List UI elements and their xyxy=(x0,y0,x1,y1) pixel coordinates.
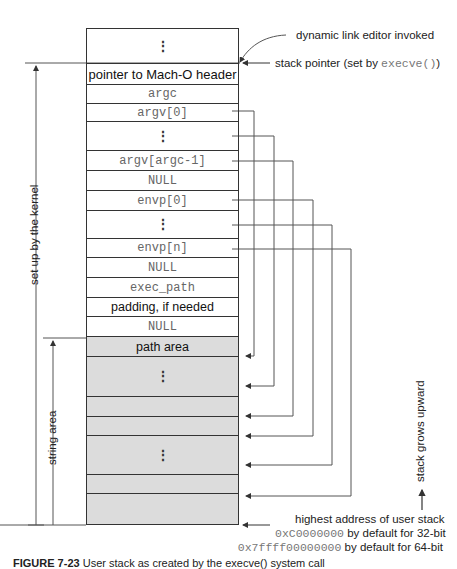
stack-cell-top-ellipsis: ⋮ xyxy=(86,28,239,63)
set-up-by-kernel-label: set up by the kernel xyxy=(28,185,40,285)
vertical-ellipsis-icon: ⋮ xyxy=(156,222,170,227)
stack-cell-padding: padding, if needed xyxy=(86,297,239,316)
dynamic-link-editor-label: dynamic link editor invoked xyxy=(296,29,434,41)
cell-label: NULL xyxy=(148,320,177,334)
cell-label: argv[argc-1] xyxy=(119,154,205,168)
cell-label: NULL xyxy=(148,174,177,188)
vertical-ellipsis-icon: ⋮ xyxy=(156,44,170,49)
stack-cell-final-null: NULL xyxy=(86,316,239,336)
highest-address-label: highest address of user stack xyxy=(295,513,445,525)
caption-text: User stack as created by the execve() sy… xyxy=(83,557,325,569)
string-area-ellipsis-1: ⋮ xyxy=(86,356,239,396)
cell-label: envp[0] xyxy=(137,194,187,208)
stack-pointer-text: stack pointer (set by xyxy=(275,57,381,69)
cell-label: argv[0] xyxy=(137,106,187,120)
addr64-code: 0x7ffff00000000 xyxy=(238,541,342,554)
addr-64bit-label: 0x7ffff00000000 by default for 64-bit xyxy=(225,541,443,554)
vertical-ellipsis-icon: ⋮ xyxy=(156,453,170,458)
figure-caption: FIGURE 7-23 User stack as created by the… xyxy=(13,557,325,569)
cell-label: path area xyxy=(136,340,189,354)
addr64-text: by default for 64-bit xyxy=(341,541,443,553)
stack-cell-envp-ellipsis: ⋮ xyxy=(86,210,239,238)
string-area-slot xyxy=(86,493,239,525)
stack-cell-argc: argc xyxy=(86,84,239,103)
execve-code: execve() xyxy=(381,57,436,70)
string-area-path: path area xyxy=(86,336,239,356)
string-area-ellipsis-2: ⋮ xyxy=(86,435,239,474)
string-area-slot xyxy=(86,474,239,493)
addr-32bit-label: 0xC0000000 by default for 32-bit xyxy=(275,527,443,540)
stack-cell-envp0: envp[0] xyxy=(86,190,239,210)
stack-grows-label: stack grows upward xyxy=(414,380,426,482)
stack-cell-argv0: argv[0] xyxy=(86,103,239,121)
vertical-ellipsis-icon: ⋮ xyxy=(156,134,170,139)
string-area-label: string area xyxy=(46,411,58,465)
stack-cell-argv-ellipsis: ⋮ xyxy=(86,121,239,150)
stack-cell-envpn: envp[n] xyxy=(86,238,239,257)
stack-cell-argv-null: NULL xyxy=(86,170,239,190)
addr32-text: by default for 32-bit xyxy=(344,527,446,539)
addr32-code: 0xC0000000 xyxy=(275,527,344,540)
string-area-slot xyxy=(86,416,239,435)
stack-cell-argv-last: argv[argc-1] xyxy=(86,150,239,170)
cell-label: NULL xyxy=(148,261,177,275)
cell-label: exec_path xyxy=(130,281,195,295)
figure-number: FIGURE 7-23 xyxy=(13,557,80,569)
cell-label: argc xyxy=(148,87,177,101)
cell-label: padding, if needed xyxy=(111,300,214,314)
string-area-slot xyxy=(86,396,239,416)
stack-cell-mach-o-pointer: pointer to Mach-O header xyxy=(86,63,239,84)
stack-pointer-label: stack pointer (set by execve()) xyxy=(275,57,440,70)
vertical-ellipsis-icon: ⋮ xyxy=(156,374,170,379)
cell-label: envp[n] xyxy=(137,241,187,255)
stack-cell-envp-null: NULL xyxy=(86,257,239,277)
stack-cell-exec-path: exec_path xyxy=(86,277,239,297)
cell-label: pointer to Mach-O header xyxy=(88,67,236,82)
stack-pointer-suffix: ) xyxy=(436,57,440,69)
